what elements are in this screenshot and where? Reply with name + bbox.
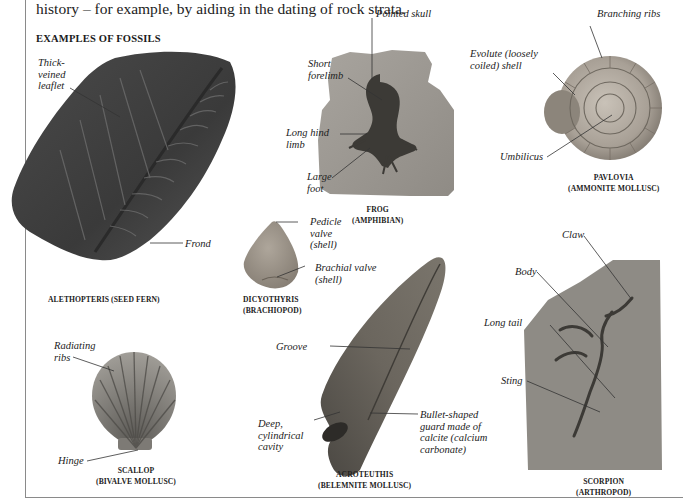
label-evolute-shell: Evolute (loosely coiled) shell [470,48,538,71]
label-line: Bullet-shaped [420,409,487,421]
label-line: Deep, [258,418,304,430]
label-thick-veined-leaflet: Thick- veined leaflet [38,57,65,92]
caption-scorpion: SCORPION (ARTHROPOD) [576,477,631,498]
label-claw: Claw [562,229,584,241]
label-line: Evolute (loosely [470,48,538,60]
caption-line: (BRACHIOPOD) [243,306,302,317]
label-long-tail: Long tail [484,317,522,329]
caption-line: (AMMONITE MOLLUSC) [568,184,659,195]
label-line: foot [307,183,332,195]
label-line: veined [38,69,65,81]
label-line: coiled) shell [470,60,538,72]
caption-dicyothyris: DICYOTHYRIS (BRACHIOPOD) [243,295,302,316]
caption-line: (BIVALVE MOLLUSC) [96,477,176,488]
label-line: Long hind [286,127,329,139]
label-line: Radiating [54,340,95,352]
label-body: Body [515,266,537,278]
label-line: Brachial valve [315,262,377,274]
caption-pavlovia: PAVLOVIA (AMMONITE MOLLUSC) [568,173,659,194]
label-line: carbonate) [420,444,487,456]
caption-line: DICYOTHYRIS [243,295,302,306]
label-frond: Frond [185,238,211,250]
caption-line: (AMPHIBIAN) [352,216,403,227]
label-line: forelimb [308,70,343,82]
label-deep-cylindrical-cavity: Deep, cylindrical cavity [258,418,304,453]
label-short-forelimb: Short forelimb [308,58,343,81]
label-line: calcite (calcium [420,432,487,444]
caption-acroteuthis: ACROTEUTHIS (BELEMNITE MOLLUSC) [318,470,411,491]
pavlovia-ammonite-image [544,56,662,160]
label-line: (shell) [310,239,341,251]
caption-line: ACROTEUTHIS [318,470,411,481]
caption-frog: FROG (AMPHIBIAN) [352,205,403,226]
label-groove: Groove [276,341,307,353]
label-pointed-skull: Pointed skull [376,8,431,20]
label-line: Thick- [38,57,65,69]
label-bullet-shaped-guard: Bullet-shaped guard made of calcite (cal… [420,409,487,455]
dicyothyris-brachiopod-image [244,221,299,288]
label-long-hind-limb: Long hind limb [286,127,329,150]
label-line: ribs [54,352,95,364]
label-line: Pedicle [310,216,341,228]
label-brachial-valve: Brachial valve (shell) [315,262,377,285]
caption-line: (ARTHROPOD) [576,488,631,499]
caption-line: FROG [352,205,403,216]
label-line: Large [307,171,332,183]
label-line: cylindrical [258,430,304,442]
label-sting: Sting [501,375,523,387]
label-line: guard made of [420,421,487,433]
label-umbilicus: Umbilicus [500,151,543,163]
label-pedicle-valve: Pedicle valve (shell) [310,216,341,251]
label-line: valve [310,228,341,240]
caption-scallop: SCALLOP (BIVALVE MOLLUSC) [96,466,176,487]
label-line: (shell) [315,274,377,286]
label-radiating-ribs: Radiating ribs [54,340,95,363]
scallop-shell-image [92,352,176,450]
label-large-foot: Large foot [307,171,332,194]
label-hinge: Hinge [58,455,84,467]
scorpion-fossil-image [524,260,662,470]
label-branching-ribs: Branching ribs [597,8,660,20]
label-line: cavity [258,441,304,453]
caption-line: SCALLOP [96,466,176,477]
caption-line: SCORPION [576,477,631,488]
caption-line: (BELEMNITE MOLLUSC) [318,481,411,492]
caption-line: PAVLOVIA [568,173,659,184]
label-line: limb [286,139,329,151]
label-line: Short [308,58,343,70]
caption-alethopteris: ALETHOPTERIS (SEED FERN) [48,295,160,306]
caption-line: ALETHOPTERIS (SEED FERN) [48,295,160,306]
label-line: leaflet [38,80,65,92]
